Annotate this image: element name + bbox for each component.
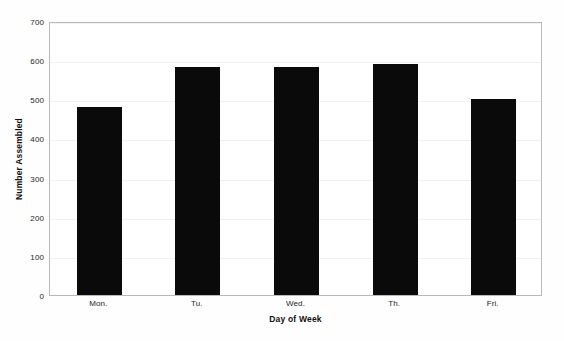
x-axis-title: Day of Week <box>49 314 542 324</box>
bar <box>373 64 418 295</box>
x-tick-label: Mon. <box>89 299 107 308</box>
y-tick-label: 600 <box>4 57 44 66</box>
y-tick-label: 400 <box>4 135 44 144</box>
x-tick-label: Wed. <box>286 299 305 308</box>
bar <box>175 67 220 295</box>
y-axis-tick-labels: 0100200300400500600700 <box>0 22 44 296</box>
x-tick-label: Th. <box>388 299 400 308</box>
gridline <box>50 23 541 24</box>
y-tick-label: 100 <box>4 252 44 261</box>
x-tick-label: Fri. <box>487 299 499 308</box>
y-tick-label: 700 <box>4 18 44 27</box>
bar <box>471 99 516 295</box>
bar <box>274 67 319 295</box>
y-tick-label: 300 <box>4 174 44 183</box>
y-tick-label: 0 <box>4 292 44 301</box>
bar <box>77 107 122 295</box>
bar-chart-figure: Number Assembled 0100200300400500600700 … <box>0 0 564 341</box>
x-axis-tick-labels: Mon.Tu.Wed.Th.Fri. <box>49 299 542 313</box>
plot-area <box>49 22 542 296</box>
gridline <box>50 62 541 63</box>
x-tick-label: Tu. <box>191 299 203 308</box>
y-tick-label: 500 <box>4 96 44 105</box>
y-tick-label: 200 <box>4 213 44 222</box>
